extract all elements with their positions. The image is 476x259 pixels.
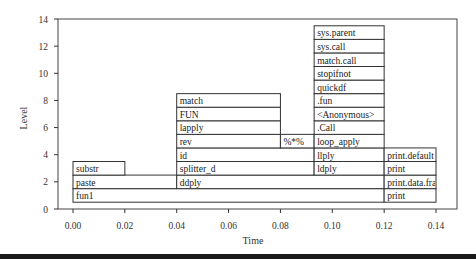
flame-block[interactable]: quickdf xyxy=(314,80,384,94)
flame-block-label: .fun xyxy=(317,96,332,106)
flame-block[interactable]: ddply xyxy=(177,175,384,189)
flame-block-label: id xyxy=(180,151,188,161)
flame-block[interactable]: splitter_d xyxy=(177,162,314,176)
flame-block-label: print.default xyxy=(387,151,434,161)
flame-block[interactable]: print.default xyxy=(384,148,436,162)
y-tick-label: 0 xyxy=(43,205,48,215)
y-tick-label: 12 xyxy=(39,42,49,52)
bottom-border-bar xyxy=(0,254,476,259)
flame-block[interactable]: id xyxy=(177,148,314,162)
flame-block-label: .Call xyxy=(317,123,336,133)
x-tick-label: 0.08 xyxy=(272,221,289,231)
y-tick-label: 14 xyxy=(39,15,49,25)
y-tick-label: 2 xyxy=(43,177,48,187)
flame-block-label: %*% xyxy=(283,137,304,147)
flame-block-label: print xyxy=(387,164,405,174)
flame-block[interactable]: rev xyxy=(177,134,281,148)
flame-block-label: sys.call xyxy=(317,42,346,52)
flame-block-label: FUN xyxy=(180,110,199,120)
flame-block-label: ldply xyxy=(317,164,337,174)
flame-block[interactable]: print.data.frame xyxy=(384,175,448,189)
y-tick-label: 8 xyxy=(43,96,48,106)
x-tick-label: 0.06 xyxy=(220,221,237,231)
y-tick-label: 10 xyxy=(39,69,49,79)
flame-block[interactable]: .fun xyxy=(314,94,384,108)
flame-block-label: loop_apply xyxy=(317,137,360,147)
flame-block-rect xyxy=(177,134,281,148)
flame-block-label: print xyxy=(387,191,405,201)
flame-block[interactable]: sys.call xyxy=(314,39,384,53)
y-axis-label: Level xyxy=(18,106,29,129)
flame-block[interactable]: .Call xyxy=(314,121,384,135)
flame-block-label: print.data.frame xyxy=(387,178,448,188)
flame-block-rect xyxy=(177,148,314,162)
flame-block[interactable]: lapply xyxy=(177,121,281,135)
flame-block-rect xyxy=(73,189,384,203)
flame-block-label: paste xyxy=(76,178,96,188)
flame-block[interactable]: stopifnot xyxy=(314,67,384,81)
flame-block-label: rev xyxy=(180,137,192,147)
flame-block-label: <Anonymous> xyxy=(317,110,374,120)
x-tick-label: 0.02 xyxy=(117,221,134,231)
flame-block-label: quickdf xyxy=(317,83,347,93)
flame-block[interactable]: loop_apply xyxy=(314,134,384,148)
flame-block[interactable]: ldply xyxy=(314,162,384,176)
flame-block-rect xyxy=(177,175,384,189)
flame-block-label: lapply xyxy=(180,123,204,133)
x-tick-label: 0.14 xyxy=(428,221,445,231)
x-tick-label: 0.12 xyxy=(376,221,393,231)
flame-block[interactable]: substr xyxy=(73,162,125,176)
x-tick-label: 0.00 xyxy=(65,221,82,231)
flame-block[interactable]: print xyxy=(384,162,436,176)
x-tick-label: 0.04 xyxy=(168,221,185,231)
flame-block-label: splitter_d xyxy=(180,164,216,174)
flame-block-label: match xyxy=(180,96,203,106)
x-axis-label: Time xyxy=(243,235,264,246)
flame-block[interactable]: %*% xyxy=(280,134,314,148)
flame-block-label: fun1 xyxy=(76,191,94,201)
flame-block[interactable]: match xyxy=(177,94,281,108)
flame-block[interactable]: <Anonymous> xyxy=(314,107,384,121)
flame-block[interactable]: fun1 xyxy=(73,189,384,203)
flame-block[interactable]: match.call xyxy=(314,53,384,67)
flame-block[interactable]: paste xyxy=(73,175,177,189)
flame-block-label: stopifnot xyxy=(317,69,351,79)
flame-block[interactable]: print xyxy=(384,189,436,203)
flame-block[interactable]: llply xyxy=(314,148,384,162)
flame-graph-chart: fun1printpasteddplyprint.data.framesubst… xyxy=(0,0,476,259)
flame-block-label: ddply xyxy=(180,178,202,188)
flame-block[interactable]: sys.parent xyxy=(314,26,384,40)
y-tick-label: 6 xyxy=(43,123,48,133)
flame-blocks: fun1printpasteddplyprint.data.framesubst… xyxy=(73,26,448,202)
flame-block-label: substr xyxy=(76,164,100,174)
flame-block-label: sys.parent xyxy=(317,28,356,38)
flame-block-label: llply xyxy=(317,151,335,161)
flame-block[interactable]: FUN xyxy=(177,107,281,121)
y-tick-label: 4 xyxy=(43,150,48,160)
flame-block-label: match.call xyxy=(317,56,357,66)
x-axis: 0.000.020.040.060.080.100.120.14 xyxy=(65,209,445,231)
x-tick-label: 0.10 xyxy=(324,221,341,231)
y-axis: 02468101214 xyxy=(39,15,59,215)
